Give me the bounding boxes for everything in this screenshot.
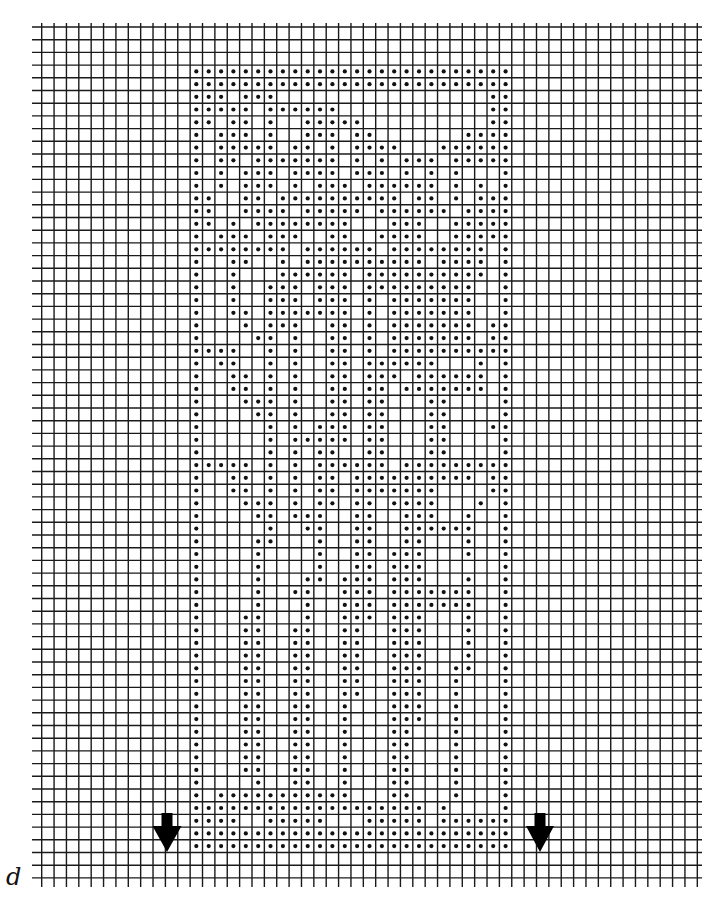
- stitch-dot: [306, 704, 310, 708]
- stitch-dot: [442, 349, 446, 353]
- stitch-dot: [479, 819, 483, 823]
- stitch-dot: [367, 831, 371, 835]
- stitch-dot: [454, 273, 458, 277]
- stitch-dot: [293, 387, 297, 391]
- stitch-dot: [429, 400, 433, 404]
- stitch-dot: [392, 565, 396, 569]
- stitch-dot: [504, 819, 508, 823]
- stitch-dot: [194, 819, 198, 823]
- stitch-dot: [479, 133, 483, 137]
- stitch-dot: [355, 146, 359, 150]
- stitch-dot: [367, 425, 371, 429]
- stitch-dot: [343, 400, 347, 404]
- stitch-dot: [268, 387, 272, 391]
- stitch-dot: [306, 196, 310, 200]
- stitch-dot: [306, 69, 310, 73]
- stitch-dot: [454, 704, 458, 708]
- stitch-dot: [429, 158, 433, 162]
- stitch-dot: [343, 742, 347, 746]
- stitch-dot: [207, 463, 211, 467]
- stitch-dot: [343, 806, 347, 810]
- stitch-dot: [417, 844, 421, 848]
- stitch-dot: [343, 844, 347, 848]
- stitch-dot: [429, 488, 433, 492]
- stitch-dot: [318, 450, 322, 454]
- stitch-dot: [293, 463, 297, 467]
- stitch-dot: [429, 323, 433, 327]
- stitch-dot: [306, 311, 310, 315]
- stitch-dot: [293, 755, 297, 759]
- stitch-dot: [207, 120, 211, 124]
- stitch-dot: [405, 527, 409, 531]
- stitch-dot: [491, 196, 495, 200]
- stitch-dot: [244, 692, 248, 696]
- stitch-dot: [194, 717, 198, 721]
- stitch-dot: [194, 679, 198, 683]
- stitch-dot: [454, 311, 458, 315]
- stitch-dot: [256, 806, 260, 810]
- stitch-dot: [504, 793, 508, 797]
- stitch-dot: [207, 107, 211, 111]
- stitch-dot: [281, 196, 285, 200]
- stitch-dot: [256, 704, 260, 708]
- stitch-dot: [318, 133, 322, 137]
- stitch-dot: [343, 577, 347, 581]
- stitch-dot: [244, 717, 248, 721]
- stitch-dot: [268, 438, 272, 442]
- stitch-dot: [479, 361, 483, 365]
- stitch-dot: [244, 730, 248, 734]
- stitch-dot: [355, 82, 359, 86]
- stitch-dot: [306, 133, 310, 137]
- stitch-dot: [367, 438, 371, 442]
- stitch-dot: [306, 819, 310, 823]
- stitch-dot: [231, 349, 235, 353]
- stitch-dot: [504, 590, 508, 594]
- stitch-dot: [479, 196, 483, 200]
- stitch-dot: [194, 158, 198, 162]
- stitch-dot: [293, 730, 297, 734]
- stitch-dot: [306, 603, 310, 607]
- stitch-dot: [429, 387, 433, 391]
- stitch-dot: [244, 768, 248, 772]
- stitch-dot: [355, 666, 359, 670]
- stitch-dot: [194, 184, 198, 188]
- stitch-dot: [268, 120, 272, 124]
- grid-lines: [32, 23, 702, 887]
- stitch-dot: [318, 539, 322, 543]
- stitch-dot: [268, 501, 272, 505]
- stitch-dot: [256, 717, 260, 721]
- stitch-dot: [219, 146, 223, 150]
- stitch-dot: [330, 336, 334, 340]
- stitch-dot: [504, 742, 508, 746]
- stitch-dot: [194, 247, 198, 251]
- stitch-dot: [405, 603, 409, 607]
- stitch-dot: [244, 463, 248, 467]
- stitch-dot: [244, 793, 248, 797]
- stitch-dot: [405, 158, 409, 162]
- stitch-dot: [417, 234, 421, 238]
- stitch-dot: [380, 158, 384, 162]
- stitch-dot: [442, 247, 446, 251]
- stitch-dot: [231, 298, 235, 302]
- stitch-dot: [367, 82, 371, 86]
- stitch-dot: [442, 438, 446, 442]
- stitch-dot: [343, 654, 347, 658]
- stitch-dot: [429, 501, 433, 505]
- stitch-dot: [231, 158, 235, 162]
- stitch-dot: [194, 552, 198, 556]
- stitch-dot: [367, 577, 371, 581]
- stitch-dot: [219, 133, 223, 137]
- stitch-dot: [194, 171, 198, 175]
- stitch-dot: [504, 425, 508, 429]
- stitch-dot: [281, 298, 285, 302]
- stitch-dot: [231, 831, 235, 835]
- stitch-dot: [454, 590, 458, 594]
- stitch-dot: [380, 285, 384, 289]
- stitch-dot: [318, 158, 322, 162]
- stitch-dot: [454, 234, 458, 238]
- stitch-dot: [306, 222, 310, 226]
- stitch-dot: [479, 844, 483, 848]
- stitch-dot: [293, 374, 297, 378]
- stitch-dot: [392, 82, 396, 86]
- stitch-dot: [318, 501, 322, 505]
